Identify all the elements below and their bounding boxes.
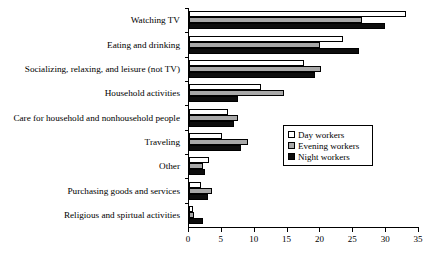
x-axis-tick-label: 15 — [277, 234, 297, 244]
bar-night — [189, 72, 315, 78]
x-axis-tick — [418, 228, 419, 232]
x-axis-tick-label: 5 — [211, 234, 231, 244]
legend-item: Night workers — [288, 151, 368, 162]
legend-item: Day workers — [288, 129, 368, 140]
x-axis-tick — [319, 228, 320, 232]
x-axis-tick-label: 0 — [178, 234, 198, 244]
legend-item: Evening workers — [288, 140, 368, 151]
bar-night — [189, 218, 203, 224]
category-label: Purchasing goods and services — [67, 186, 180, 196]
plot-area: 05101520253035 — [188, 8, 418, 227]
bar-night — [189, 96, 238, 102]
category-label: Socializing, relaxing, and leisure (not … — [25, 64, 180, 74]
category-label: Religious and spirtual activities — [64, 210, 180, 220]
y-axis-tick — [185, 130, 189, 131]
bar-night — [189, 121, 234, 127]
y-axis-tick — [185, 203, 189, 204]
x-axis-tick — [254, 228, 255, 232]
y-axis-tick — [185, 105, 189, 106]
category-label: Traveling — [145, 137, 180, 147]
bar-chart: Watching TVEating and drinkingSocializin… — [0, 0, 431, 256]
y-axis-tick — [185, 8, 189, 9]
y-axis-tick — [185, 81, 189, 82]
bar-night — [189, 145, 241, 151]
bar-night — [189, 23, 385, 29]
x-axis-tick — [188, 228, 189, 232]
category-label: Care for household and nonhousehold peop… — [13, 113, 180, 123]
category-label: Eating and drinking — [107, 40, 180, 50]
x-axis-tick-label: 30 — [375, 234, 395, 244]
black-square-icon — [288, 153, 295, 160]
x-axis-tick-label: 10 — [244, 234, 264, 244]
legend-label: Evening workers — [298, 141, 359, 151]
category-label: Watching TV — [131, 15, 180, 25]
bar-night — [189, 169, 205, 175]
y-axis-tick — [185, 57, 189, 58]
gray-square-icon — [288, 142, 295, 149]
category-axis: Watching TVEating and drinkingSocializin… — [0, 8, 184, 227]
x-axis-tick-label: 20 — [309, 234, 329, 244]
y-axis-tick — [185, 154, 189, 155]
legend-label: Day workers — [298, 130, 344, 140]
y-axis-tick — [185, 32, 189, 33]
x-axis-tick — [221, 228, 222, 232]
category-label: Household activities — [105, 88, 180, 98]
chart-legend: Day workersEvening workersNight workers — [283, 125, 373, 166]
white-square-icon — [288, 131, 295, 138]
bar-night — [189, 48, 359, 54]
category-label: Other — [159, 161, 180, 171]
bar-night — [189, 194, 208, 200]
x-axis-tick — [287, 228, 288, 232]
x-axis-tick — [385, 228, 386, 232]
legend-label: Night workers — [298, 152, 350, 162]
y-axis-tick — [185, 178, 189, 179]
x-axis-tick-label: 25 — [342, 234, 362, 244]
x-axis-tick — [352, 228, 353, 232]
x-axis-tick-label: 35 — [408, 234, 428, 244]
